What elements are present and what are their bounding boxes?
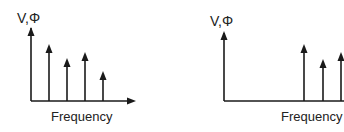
spectral-line-arrow-icon — [82, 52, 89, 61]
left-x-axis-arrow-icon — [127, 98, 136, 105]
left-spectrum-chart: V,Φ Frequency — [17, 10, 136, 124]
right-y-axis-label: V,Φ — [210, 13, 233, 29]
spectral-line-arrow-icon — [100, 71, 107, 80]
left-x-axis-label: Frequency — [51, 109, 113, 124]
spectral-line-arrow-icon — [301, 44, 308, 53]
spectral-line-arrow-icon — [320, 59, 327, 68]
left-spectral-lines — [46, 44, 107, 101]
left-y-axis-label: V,Φ — [17, 10, 40, 26]
right-y-axis-arrow-icon — [221, 31, 228, 40]
spectral-line-arrow-icon — [46, 44, 53, 53]
right-spectrum-chart: V,Φ Frequency — [210, 13, 344, 124]
spectral-line-arrow-icon — [64, 58, 71, 67]
left-y-axis-arrow-icon — [28, 27, 35, 36]
right-x-axis-label: Frequency — [281, 109, 343, 124]
spectral-line-arrow-icon — [338, 52, 344, 61]
right-spectral-lines — [301, 44, 344, 101]
spectrum-diagram: V,Φ Frequency V,Φ — [0, 0, 344, 132]
